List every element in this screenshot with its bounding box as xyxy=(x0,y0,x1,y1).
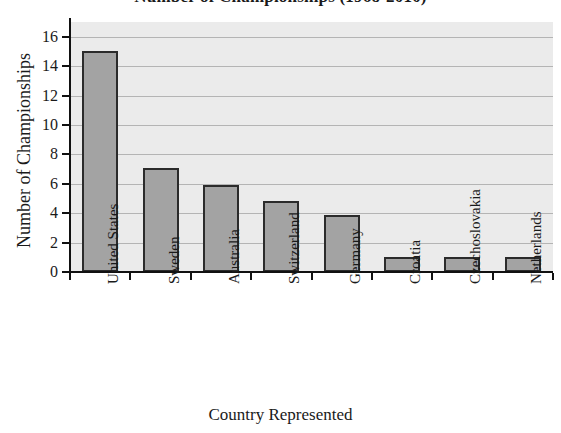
x-tick-mark xyxy=(431,273,433,280)
y-tick-mark xyxy=(62,183,71,185)
y-tick-mark xyxy=(62,124,71,126)
y-tick-label-text: 4 xyxy=(32,205,58,221)
y-tick-mark xyxy=(62,153,71,155)
y-tick-label-text: 8 xyxy=(32,146,58,162)
y-tick-mark xyxy=(62,36,71,38)
y-tick-label: 6 xyxy=(28,176,58,192)
gridline xyxy=(70,37,553,38)
x-tick-mark xyxy=(190,273,192,280)
x-axis-title: Country Represented xyxy=(0,405,561,425)
x-tick-mark xyxy=(552,273,554,280)
y-tick-label-text: 14 xyxy=(32,58,58,74)
y-axis-line xyxy=(69,18,71,276)
x-category-label: Switzerland xyxy=(287,212,302,284)
y-tick-mark xyxy=(62,212,71,214)
y-tick-label-text: 16 xyxy=(32,29,58,45)
chart-title: Number of Championships (1968-2010) xyxy=(0,0,561,7)
x-tick-mark xyxy=(492,273,494,280)
y-tick-label: 0 xyxy=(28,264,58,280)
y-tick-label: 2 xyxy=(28,235,58,251)
x-category-label: Germany xyxy=(348,228,363,284)
y-tick-label: 14 xyxy=(28,58,58,74)
y-tick-label-text: 2 xyxy=(32,235,58,251)
y-tick-label-text: 10 xyxy=(32,117,58,133)
gridline xyxy=(70,96,553,97)
x-category-label: United States xyxy=(106,204,121,284)
x-category-label: Netherlands xyxy=(529,212,544,284)
y-tick-label-text: 0 xyxy=(32,264,58,280)
y-tick-label: 4 xyxy=(28,205,58,221)
y-tick-label-text: 6 xyxy=(32,176,58,192)
x-category-label: Croatia xyxy=(408,240,423,284)
bar-chart-figure: Number of Championships (1968-2010) Numb… xyxy=(0,0,561,433)
x-tick-mark xyxy=(129,273,131,280)
gridline xyxy=(70,154,553,155)
y-tick-label: 8 xyxy=(28,146,58,162)
x-tick-mark xyxy=(250,273,252,280)
y-tick-mark xyxy=(62,65,71,67)
x-category-label: Sweden xyxy=(167,237,182,285)
gridline xyxy=(70,125,553,126)
y-tick-label-text: 12 xyxy=(32,88,58,104)
x-tick-mark xyxy=(371,273,373,280)
y-tick-mark xyxy=(62,95,71,97)
gridline xyxy=(70,66,553,67)
y-tick-mark xyxy=(62,242,71,244)
x-tick-mark xyxy=(69,273,71,280)
y-tick-label: 12 xyxy=(28,88,58,104)
y-tick-label: 10 xyxy=(28,117,58,133)
y-tick-label: 16 xyxy=(28,29,58,45)
x-category-label: Australia xyxy=(227,229,242,284)
x-tick-mark xyxy=(311,273,313,280)
x-category-label: Czechoslovakia xyxy=(468,189,483,284)
